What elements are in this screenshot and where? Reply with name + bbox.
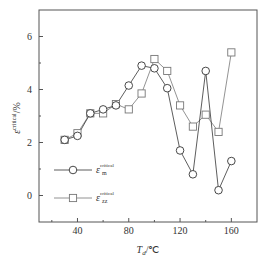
y-tick-label: 2 xyxy=(27,137,32,148)
x-tick-label: 40 xyxy=(72,225,82,236)
square-marker xyxy=(202,111,209,118)
plot-frame xyxy=(39,10,257,222)
square-marker xyxy=(164,67,171,74)
circle-marker xyxy=(176,147,184,155)
x-axis-label: Td/℃ xyxy=(137,244,160,257)
y-tick-label: 6 xyxy=(27,31,32,42)
square-marker xyxy=(215,128,222,135)
legend-label: εcriticalm xyxy=(96,163,114,176)
x-tick-label: 80 xyxy=(124,225,134,236)
series-line-zz xyxy=(65,52,232,139)
circle-marker xyxy=(138,62,146,70)
square-marker xyxy=(151,55,158,62)
square-marker xyxy=(176,102,183,109)
circle-marker xyxy=(215,186,223,194)
series-line-m xyxy=(65,66,232,191)
circle-marker xyxy=(74,132,82,140)
legend-circle-icon xyxy=(69,166,77,174)
y-axis-label: εcritical/% xyxy=(11,102,22,134)
axis-ticks: 40801201600246 xyxy=(27,31,239,236)
circle-marker xyxy=(163,84,171,92)
legend-label: εcriticalzz xyxy=(96,191,114,204)
legend: εcriticalmεcriticalzz xyxy=(54,163,114,204)
square-marker xyxy=(138,90,145,97)
circle-marker xyxy=(86,110,94,118)
square-marker xyxy=(125,106,132,113)
circle-marker xyxy=(112,102,120,110)
x-tick-label: 120 xyxy=(173,225,188,236)
circle-marker xyxy=(202,67,210,75)
square-marker xyxy=(189,123,196,130)
circle-marker xyxy=(189,171,197,179)
circle-marker xyxy=(99,106,107,114)
circle-marker xyxy=(61,136,69,144)
circle-marker xyxy=(151,65,159,73)
circle-marker xyxy=(125,82,133,90)
series-markers xyxy=(61,49,235,194)
square-marker xyxy=(228,49,235,56)
legend-square-icon xyxy=(69,194,76,201)
x-tick-label: 160 xyxy=(224,225,239,236)
y-tick-label: 4 xyxy=(27,84,32,95)
plot-area-border xyxy=(39,10,257,222)
circle-marker xyxy=(228,157,236,165)
y-tick-label: 0 xyxy=(27,190,32,201)
chart: 40801201600246 εcriticalmεcriticalzz Td/… xyxy=(0,0,263,264)
